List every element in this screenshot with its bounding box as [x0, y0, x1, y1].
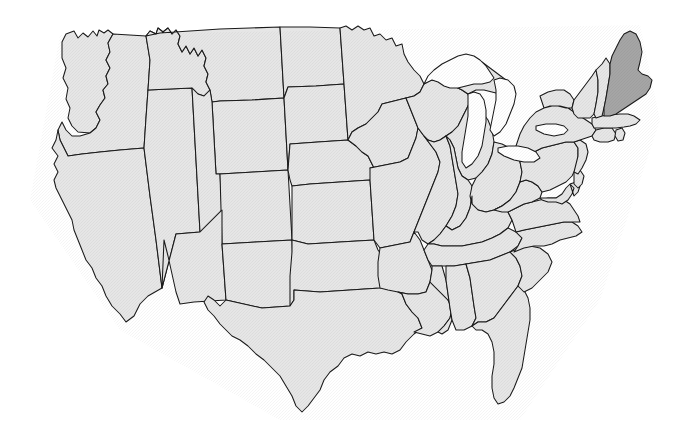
state-kansas[interactable] [292, 180, 374, 244]
state-new-mexico[interactable] [222, 240, 294, 308]
state-wyoming[interactable] [212, 98, 288, 174]
state-connecticut[interactable] [592, 128, 616, 142]
state-rhode-island[interactable] [615, 128, 625, 141]
state-colorado[interactable] [220, 170, 292, 244]
us-map-svg [0, 0, 677, 436]
us-map-container: United States Map Contiguous United Stat… [0, 0, 677, 436]
